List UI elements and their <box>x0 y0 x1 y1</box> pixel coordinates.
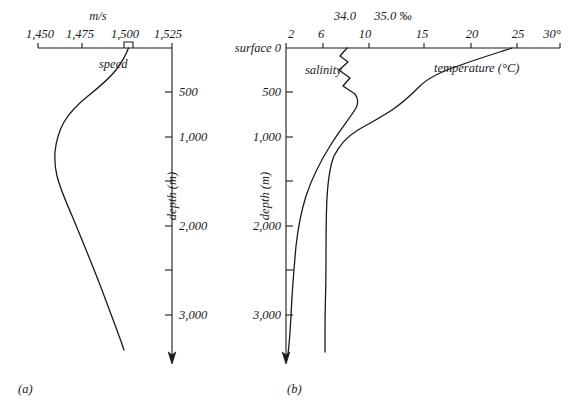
panel-b-ytick-label-1000: 1,000 <box>253 130 282 144</box>
panel-a-ytick-label-3000: 3,000 <box>178 308 208 322</box>
panel-b-temp-label-6: 6 <box>318 27 325 41</box>
panel-a-label: (a) <box>18 382 33 396</box>
panel-b-ytick-label-500: 500 <box>262 85 282 99</box>
panel-a-xtick-label-1450: 1,450 <box>26 27 55 41</box>
panel-b-yaxis-title: depth (m) <box>258 172 272 220</box>
panel-a-xtick-label-1525: 1,525 <box>154 27 182 41</box>
panel-b: 34.0 35.0 ‰ 2 6 10 15 20 25 30° surface … <box>235 9 561 396</box>
panel-b-temp-label-30: 30° <box>542 27 561 41</box>
figure-svg: m/s 1,450 1,475 1,500 1,525 500 1,000 2,… <box>0 0 570 414</box>
panel-b-salinity-annotation: salinity <box>305 63 342 77</box>
panel-b-label: (b) <box>287 382 302 396</box>
panel-a: m/s 1,450 1,475 1,500 1,525 500 1,000 2,… <box>18 9 208 396</box>
panel-b-salinity-curve <box>288 48 358 354</box>
panel-a-xaxis-unit: m/s <box>89 9 107 23</box>
panel-b-temp-label-2: 2 <box>288 27 294 41</box>
panel-a-xtick-label-1475: 1,475 <box>66 27 94 41</box>
panel-a-speed-annotation: speed <box>99 57 128 71</box>
figure-container: m/s 1,450 1,475 1,500 1,525 500 1,000 2,… <box>0 0 570 414</box>
panel-a-curve-axis-marker <box>124 42 133 48</box>
panel-b-ytick-label-surface: surface 0 <box>235 41 282 55</box>
panel-b-temperature-annotation: temperature (°C) <box>434 61 519 75</box>
panel-a-yaxis-title: depth (m) <box>165 172 179 220</box>
panel-b-ytick-label-3000: 3,000 <box>252 308 282 322</box>
panel-a-xtick-label-1500: 1,500 <box>111 27 140 41</box>
panel-b-temp-label-15: 15 <box>416 27 429 41</box>
panel-a-ytick-label-1000: 1,000 <box>179 130 208 144</box>
panel-b-temperature-curve <box>325 48 512 352</box>
panel-b-salinity-label-35: 35.0 ‰ <box>373 9 412 23</box>
panel-a-ytick-label-2000: 2,000 <box>179 219 208 233</box>
panel-a-speed-curve <box>55 48 129 350</box>
panel-a-ytick-label-500: 500 <box>179 85 199 99</box>
panel-b-temp-label-25: 25 <box>512 27 525 41</box>
panel-b-salinity-label-34: 34.0 <box>333 9 357 23</box>
panel-b-temp-label-20: 20 <box>466 27 479 41</box>
panel-b-temp-label-10: 10 <box>359 27 372 41</box>
